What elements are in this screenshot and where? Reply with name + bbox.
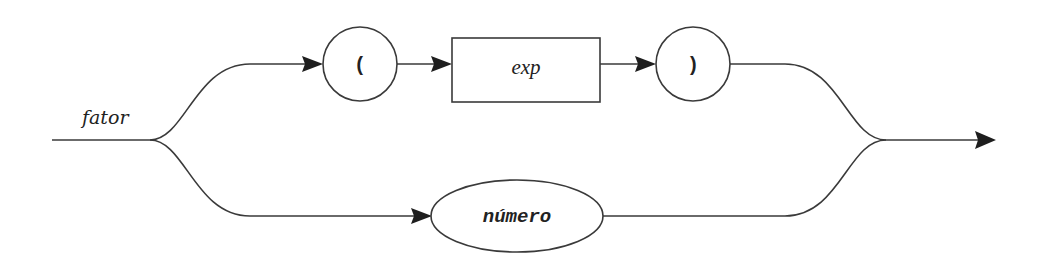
syntax-diagram: fator ( exp ) número xyxy=(0,0,1049,268)
arrow-into-open-paren-icon xyxy=(302,56,323,72)
close-paren-label: ) xyxy=(687,54,699,77)
lower-branch-merge-curve xyxy=(603,140,886,216)
open-paren-label: ( xyxy=(354,54,366,77)
exp-label: exp xyxy=(511,55,540,79)
arrow-into-close-paren-icon xyxy=(635,56,656,72)
exit-arrow-icon xyxy=(975,131,996,149)
upper-branch-merge-curve xyxy=(730,64,886,140)
rule-name-label: fator xyxy=(80,106,130,128)
lower-branch-split-curve xyxy=(150,140,422,216)
numero-label: número xyxy=(483,206,551,228)
upper-branch-split-curve xyxy=(150,64,312,140)
arrow-into-numero-icon xyxy=(411,208,432,224)
arrow-into-exp-icon xyxy=(431,56,452,72)
